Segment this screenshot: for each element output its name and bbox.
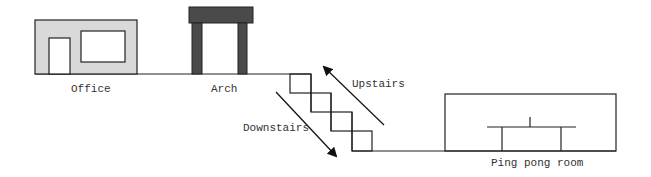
office-label: Office <box>71 83 111 95</box>
downstairs-label: Downstairs <box>243 122 309 134</box>
office-building <box>35 20 137 74</box>
upstairs-arrow <box>324 67 384 125</box>
arch-top-beam <box>189 7 253 23</box>
office-door <box>49 38 70 74</box>
diagram-canvas: Office Arch Upstairs Downstairs Ping pon… <box>0 0 651 177</box>
arch-left-pillar <box>192 23 202 74</box>
ping-pong-room-label: Ping pong room <box>491 157 583 169</box>
ping-pong-table <box>487 117 576 151</box>
office-window <box>81 31 125 62</box>
ping-pong-room <box>445 94 616 151</box>
arch-right-pillar <box>238 23 247 74</box>
upstairs-label: Upstairs <box>352 78 405 90</box>
arch-label: Arch <box>211 83 237 95</box>
arch-structure <box>189 7 253 74</box>
